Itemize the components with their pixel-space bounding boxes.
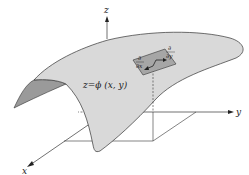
y-axis-arrow-icon [228, 110, 234, 114]
surface-diagram: z y x z=ϕ (x, y) ∂ ∂x ∂ ∂y [0, 0, 249, 175]
dx-denominator: ∂x [136, 62, 143, 69]
dy-numerator: ∂ [168, 44, 171, 51]
surface-equation-label: z=ϕ (x, y) [82, 80, 128, 90]
x-axis-arrow-icon [27, 161, 34, 167]
surface-underside [14, 80, 66, 108]
surface [34, 32, 243, 151]
z-axis-label: z [103, 5, 109, 15]
y-axis-label: y [235, 107, 242, 117]
z-axis-arrow-icon [105, 16, 109, 22]
dx-numerator: ∂ [138, 54, 141, 61]
x-axis-label: x [22, 166, 27, 175]
dy-denominator: ∂y [166, 52, 173, 60]
